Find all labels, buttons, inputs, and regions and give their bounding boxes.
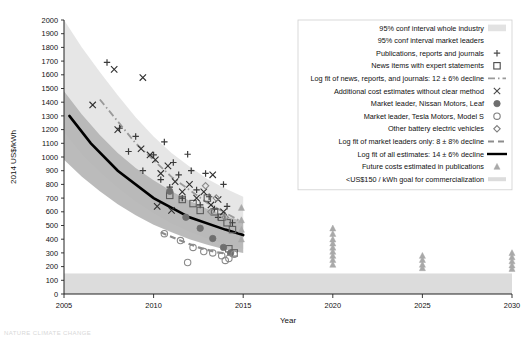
legend-label: <US$150 / kWh goal for commercialization <box>346 175 484 184</box>
data-point <box>184 151 190 157</box>
legend-label: Market leader, Tesla Motors, Model S <box>364 112 484 121</box>
y-tick-label: 0 <box>54 290 58 299</box>
y-tick-label: 300 <box>46 249 58 258</box>
legend-label: Other battery electric vehicles <box>388 124 484 133</box>
legend-group: 95% conf interval whole industry95% conf… <box>298 20 512 190</box>
y-tick-label: 100 <box>46 276 58 285</box>
x-tick-label: 2030 <box>504 301 520 310</box>
data-point <box>104 59 110 65</box>
legend-label: Additional cost estimates without clear … <box>334 87 484 96</box>
x-axis-title: Year <box>280 316 297 325</box>
y-tick-label: 1600 <box>42 70 58 79</box>
y-tick-label: 600 <box>46 207 58 216</box>
series-triangle <box>238 204 515 271</box>
legend-label: 95% conf interval whole industry <box>379 24 484 33</box>
data-point <box>111 66 117 72</box>
data-point <box>140 74 146 80</box>
legend-label: Log fit of news, reports, and journals: … <box>310 74 484 83</box>
data-point <box>184 259 190 265</box>
legend-label: News items with expert statements <box>371 61 484 70</box>
legend-label: Log fit of all estimates: 14 ± 6% declin… <box>358 150 485 159</box>
y-tick-label: 1800 <box>42 43 58 52</box>
legend-label: Market leader, Nissan Motors, Leaf <box>371 99 485 108</box>
y-tick-label: 1300 <box>42 112 58 121</box>
legend-swatch-band-dark <box>488 37 506 44</box>
data-point <box>202 170 208 176</box>
goal-band <box>64 273 512 294</box>
y-tick-label: 1000 <box>42 153 58 162</box>
y-tick-label: 700 <box>46 194 58 203</box>
data-point <box>220 244 226 250</box>
y-tick-label: 800 <box>46 180 58 189</box>
y-tick-label: 400 <box>46 235 58 244</box>
data-point <box>183 214 189 220</box>
y-tick-label: 900 <box>46 166 58 175</box>
y-tick-label: 1400 <box>42 98 58 107</box>
x-tick-label: 2025 <box>414 301 430 310</box>
y-tick-label: 500 <box>46 221 58 230</box>
y-axis-title: 2014 US$/kWh <box>9 130 18 184</box>
y-tick-label: 1200 <box>42 125 58 134</box>
legend-swatch-goal-band <box>488 177 506 181</box>
chart-figure: 0100200300400500600700800900100011001200… <box>0 0 532 350</box>
data-point <box>197 225 203 231</box>
data-point <box>161 139 167 145</box>
legend-label: Log fit of market leaders only: 8 ± 8% d… <box>338 137 484 146</box>
y-tick-label: 1900 <box>42 29 58 38</box>
y-tick-label: 200 <box>46 262 58 271</box>
y-tick-label: 1100 <box>42 139 58 148</box>
legend-label: Publications, reports and journals <box>376 49 484 58</box>
battery-cost-scatter-chart: 0100200300400500600700800900100011001200… <box>0 0 532 350</box>
data-point <box>210 172 216 178</box>
legend-label: Future costs estimated in publications <box>362 162 484 171</box>
x-tick-label: 2020 <box>325 301 341 310</box>
y-tick-label: 1700 <box>42 57 58 66</box>
x-tick-label: 2010 <box>145 301 161 310</box>
y-tick-label: 1500 <box>42 84 58 93</box>
data-point <box>201 248 207 254</box>
legend-swatch-band-light <box>488 25 506 32</box>
y-tick-label: 2000 <box>42 16 58 25</box>
data-point <box>167 188 173 194</box>
confidence-bands-group <box>64 20 243 253</box>
figure-caption: NATURE CLIMATE CHANGE <box>4 330 91 336</box>
x-tick-label: 2015 <box>235 301 251 310</box>
legend-label: 95% conf interval market leaders <box>378 36 485 45</box>
data-point <box>210 235 216 241</box>
x-tick-label: 2005 <box>56 301 72 310</box>
goal-band-group <box>64 273 512 294</box>
legend-marker-circle-filled <box>494 100 500 106</box>
